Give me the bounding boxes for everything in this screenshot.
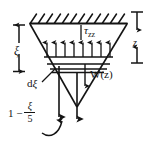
formula-numerator: ξ [26, 101, 34, 112]
slab-thickness-xi: ξ [33, 77, 38, 89]
funnel-walls [30, 24, 127, 107]
weight-label: W(z) [90, 69, 113, 80]
funnel-stress-diagram: τzz W(z) z ξ dξ 1 − ξ 5 [0, 0, 154, 149]
formula-expression: 1 − ξ 5 [8, 101, 35, 124]
diagram-canvas [0, 0, 154, 149]
formula-denominator: 5 [25, 113, 34, 124]
slab-thickness-leader [42, 68, 56, 82]
slab-thickness-label: dξ [27, 78, 37, 89]
hatched-support-surface [30, 14, 127, 24]
stress-arrow-row [44, 43, 113, 58]
depth-label-z: z [133, 38, 137, 48]
formula-fraction: ξ 5 [24, 101, 35, 124]
stress-label: τzz [84, 25, 95, 39]
formula-lead: 1 − [8, 107, 22, 119]
depth-label-xi: ξ [14, 45, 19, 57]
curved-reference-arrow [42, 121, 62, 136]
stress-subscript: zz [88, 30, 95, 39]
